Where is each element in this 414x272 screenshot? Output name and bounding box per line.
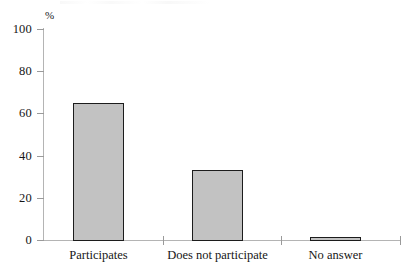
y-axis-label-60: 60 (0, 107, 32, 120)
cropped-edge-artifact (60, 1, 210, 4)
y-axis-line (43, 28, 44, 241)
bar-participates (73, 103, 124, 241)
y-axis-label-20: 20 (0, 192, 32, 205)
y-axis-tick-100 (37, 29, 44, 30)
x-axis-label-participates: Participates (50, 249, 147, 263)
y-axis-label-80: 80 (0, 65, 32, 78)
y-axis-unit-label: % (45, 10, 54, 21)
x-axis-label-does-not-participate: Does not participate (157, 249, 278, 263)
y-axis-label-100: 100 (0, 23, 32, 36)
x-axis-tick-2 (281, 236, 282, 245)
y-axis-tick-60 (37, 113, 44, 114)
y-axis-label-40: 40 (0, 150, 32, 163)
x-axis-label-no-answer: No answer (288, 249, 383, 263)
bar-chart: % 100 80 60 40 20 0 Participates Does no… (0, 0, 414, 272)
y-axis-tick-40 (37, 156, 44, 157)
y-axis-tick-20 (37, 198, 44, 199)
x-axis-tick-3 (400, 236, 401, 245)
bar-does-not-participate (192, 170, 243, 241)
x-axis-tick-1 (163, 236, 164, 245)
y-axis-tick-80 (37, 71, 44, 72)
y-axis-label-0: 0 (0, 234, 32, 247)
y-axis-tick-0 (37, 240, 44, 241)
bar-no-answer (310, 237, 361, 241)
